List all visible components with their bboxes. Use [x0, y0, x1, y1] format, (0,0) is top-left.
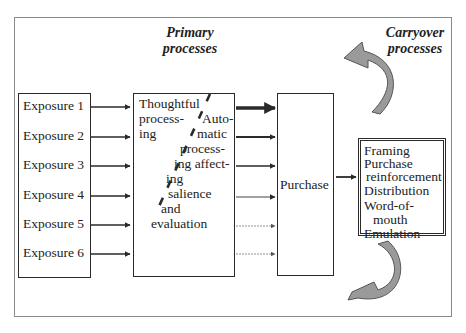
- dashed-divider: [156, 94, 210, 213]
- connectors-layer: [0, 0, 466, 333]
- exposure-arrows: [91, 107, 130, 254]
- curved-arrow-left-icon: [344, 42, 393, 114]
- curved-arrow-left-icon: [348, 241, 401, 300]
- processing-arrows: [236, 108, 275, 254]
